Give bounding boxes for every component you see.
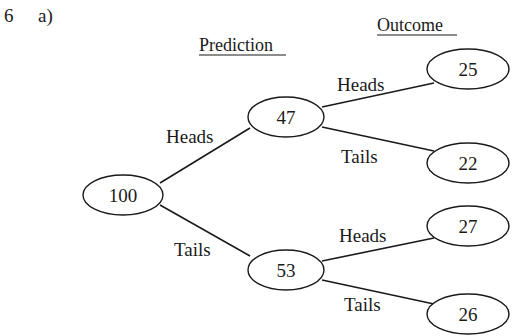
node-root: 100 — [83, 175, 163, 215]
question-part: a) — [38, 5, 53, 27]
node-outcome-heads-tails-value: 22 — [459, 153, 478, 174]
node-outcome-heads-heads-value: 25 — [459, 59, 478, 80]
node-outcome-tails-tails-value: 26 — [459, 304, 478, 325]
branch-label-heads-heads: Heads — [337, 74, 384, 95]
node-outcome-tails-tails: 26 — [427, 294, 509, 334]
node-prediction-heads-value: 47 — [277, 107, 296, 128]
outcome-header: Outcome — [377, 15, 443, 35]
node-outcome-heads-tails: 22 — [427, 143, 509, 183]
branch-label-tails-tails: Tails — [344, 294, 381, 315]
branch-label-tails-heads: Heads — [339, 225, 386, 246]
question-number: 6 — [4, 5, 14, 26]
node-outcome-heads-heads: 25 — [427, 49, 509, 89]
branch-label-tails: Tails — [174, 239, 211, 260]
branch-label-heads-tails: Tails — [341, 146, 378, 167]
frequency-tree-diagram: 6 a) Prediction Outcome Heads Tails Head… — [0, 0, 520, 336]
node-prediction-tails-value: 53 — [277, 260, 296, 281]
node-prediction-tails: 53 — [248, 250, 324, 290]
branch-label-heads: Heads — [166, 126, 213, 147]
prediction-header: Prediction — [199, 35, 273, 55]
node-outcome-tails-heads: 27 — [427, 206, 509, 246]
node-prediction-heads: 47 — [248, 97, 324, 137]
node-root-value: 100 — [109, 185, 138, 206]
node-outcome-tails-heads-value: 27 — [459, 216, 478, 237]
edge-heads-tails — [322, 127, 434, 151]
